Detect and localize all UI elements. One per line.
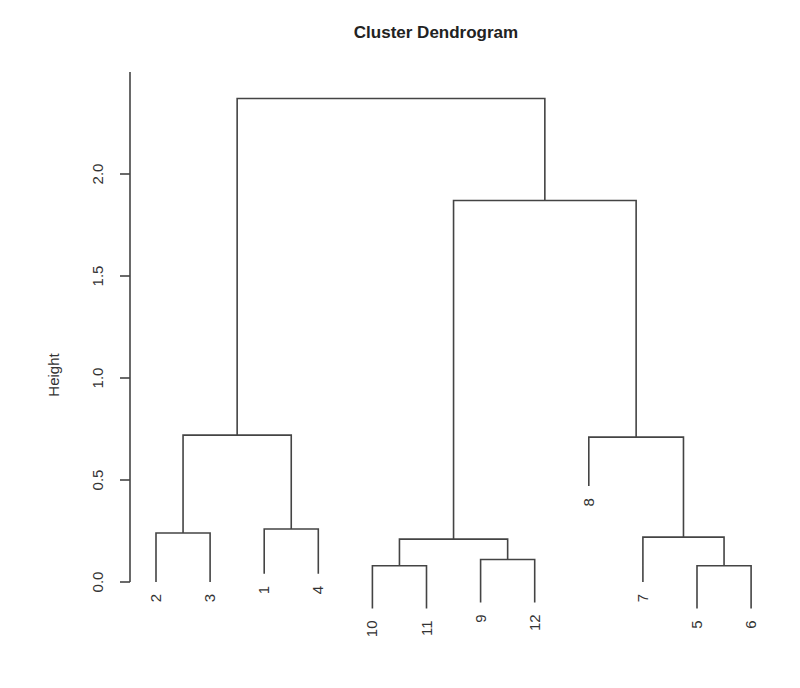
- leaf-label-1: 1: [255, 586, 272, 594]
- y-tick-label: 1.0: [89, 368, 106, 389]
- branch-m23: [156, 533, 210, 582]
- branch-m10_12: [399, 539, 507, 566]
- branch-m56: [697, 566, 751, 609]
- branch-m1011: [372, 566, 426, 609]
- branch-mright: [454, 201, 637, 540]
- y-axis: 0.00.51.01.52.0: [89, 72, 130, 592]
- branch-mroot: [237, 99, 545, 436]
- leaf-label-5: 5: [688, 621, 705, 629]
- leaf-label-10: 10: [363, 621, 380, 638]
- branch-m756: [643, 537, 724, 582]
- dendrogram-chart: Cluster Dendrogram Height 0.00.51.01.52.…: [0, 0, 800, 688]
- y-tick-label: 0.0: [89, 572, 106, 593]
- leaf-label-6: 6: [742, 621, 759, 629]
- dendrogram-branches: [156, 99, 751, 609]
- branch-m912: [481, 560, 535, 603]
- leaf-label-4: 4: [309, 586, 326, 594]
- y-tick-label: 0.5: [89, 470, 106, 491]
- y-axis-label: Height: [45, 352, 62, 396]
- leaf-label-8: 8: [580, 498, 597, 506]
- branch-m2_4: [183, 435, 291, 533]
- y-tick-label: 1.5: [89, 266, 106, 287]
- branch-m14: [264, 529, 318, 574]
- leaf-label-7: 7: [634, 594, 651, 602]
- leaf-label-9: 9: [472, 614, 489, 622]
- leaf-label-3: 3: [201, 594, 218, 602]
- chart-title: Cluster Dendrogram: [354, 23, 518, 42]
- leaf-label-11: 11: [418, 621, 435, 637]
- leaf-label-2: 2: [147, 594, 164, 602]
- y-tick-label: 2.0: [89, 164, 106, 185]
- leaf-label-12: 12: [526, 614, 543, 631]
- branch-m8_6: [589, 437, 684, 537]
